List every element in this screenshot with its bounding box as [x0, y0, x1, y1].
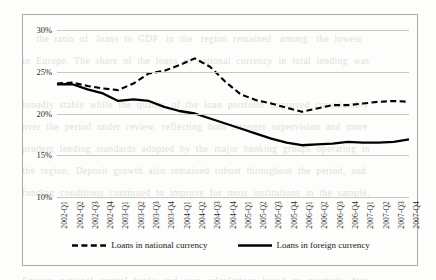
x-axis-tick-label: 2004-Q1 [183, 201, 192, 229]
gridline [57, 197, 409, 198]
legend-label: Loans in foreign currency [277, 240, 370, 250]
x-axis-tick-label: 2002-Q3 [91, 201, 100, 229]
x-axis-tick-label: 2007-Q3 [397, 201, 406, 229]
chart-figure: 10%15%20%25%30% 2002-Q12002-Q22002-Q3200… [22, 14, 418, 266]
x-axis-tick-label: 2006-Q2 [320, 201, 329, 229]
gridline [57, 155, 409, 156]
legend-swatch-dashed [72, 241, 106, 250]
legend-item: Loans in national currency [72, 240, 207, 250]
plot-area: 10%15%20%25%30% [57, 30, 409, 197]
gridline [57, 30, 409, 31]
legend-label: Loans in national currency [111, 240, 207, 250]
x-axis-tick-label: 2007-Q2 [382, 201, 391, 229]
gridline [57, 114, 409, 115]
x-axis-tick-label: 2004-Q4 [229, 201, 238, 229]
x-axis-tick-label: 2002-Q1 [60, 201, 69, 229]
x-axis-tick-label: 2003-Q2 [137, 201, 146, 229]
x-axis-tick-label: 2006-Q4 [351, 201, 360, 229]
y-axis-tick-label: 10% [36, 192, 52, 202]
y-axis-tick-label: 20% [36, 109, 52, 119]
x-axis-tick-label: 2005-Q2 [259, 201, 268, 229]
x-axis-tick-label: 2002-Q4 [106, 201, 115, 229]
x-axis-tick-label: 2003-Q1 [121, 201, 130, 229]
series-line-dashed [57, 58, 409, 111]
x-axis-tick-label: 2005-Q1 [244, 201, 253, 229]
x-axis-tick-label: 2007-Q1 [366, 201, 375, 229]
y-axis-tick-label: 30% [36, 25, 52, 35]
x-axis-tick-label: 2006-Q3 [336, 201, 345, 229]
x-axis-tick-label: 2002-Q2 [76, 201, 85, 229]
gridline [57, 72, 409, 73]
x-axis-tick-label: 2005-Q3 [274, 201, 283, 229]
x-axis-tick-label: 2007-Q4 [412, 201, 421, 229]
legend-swatch-solid [238, 241, 272, 250]
chart-legend: Loans in national currencyLoans in forei… [23, 240, 419, 250]
x-axis-tick-label: 2003-Q4 [167, 201, 176, 229]
x-axis-tick-label: 2003-Q3 [152, 201, 161, 229]
series-line-solid [57, 84, 409, 145]
x-axis-tick-label: 2004-Q3 [213, 201, 222, 229]
x-axis-tick-label: 2006-Q1 [305, 201, 314, 229]
y-axis-tick-label: 25% [36, 67, 52, 77]
x-axis-tick-label: 2005-Q4 [290, 201, 299, 229]
legend-item: Loans in foreign currency [238, 240, 370, 250]
x-axis-tick-label: 2004-Q2 [198, 201, 207, 229]
y-axis-tick-label: 15% [36, 150, 52, 160]
